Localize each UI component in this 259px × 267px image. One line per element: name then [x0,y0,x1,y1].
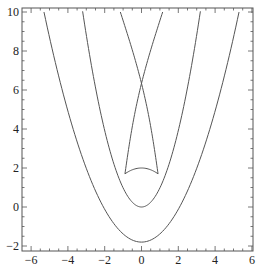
plot-frame [22,8,253,251]
y-tick-label: 8 [13,44,19,58]
x-tick-label: −6 [25,253,38,267]
y-tick-label: 2 [13,161,19,175]
x-tick-label: 2 [175,253,181,267]
y-tick-label: −2 [6,239,19,253]
x-tick-label: 6 [249,253,255,267]
curves [44,11,239,242]
outer-parabola-curve [44,12,239,242]
x-tick-label: 4 [212,253,218,267]
y-tick-label: 6 [13,83,19,97]
y-axis-tick-labels: −20246810 [6,5,19,253]
axis-ticks [22,8,253,251]
x-tick-label: −2 [98,253,111,267]
y-tick-label: 4 [13,122,19,136]
y-tick-label: 0 [13,200,19,214]
inner-parabola-curve [83,11,201,207]
swallowtail-bottom-arc-curve [125,168,158,174]
x-axis-tick-labels: −6−4−20246 [25,253,255,267]
x-tick-label: 0 [139,253,145,267]
axes-box [22,8,253,251]
x-tick-label: −4 [62,253,75,267]
chart: −6−4−20246 −20246810 [0,0,259,267]
y-tick-label: 10 [7,5,19,19]
